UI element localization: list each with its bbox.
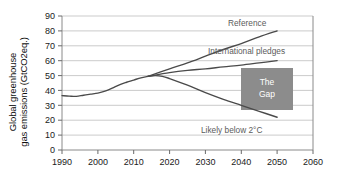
x-tick-label: 1990 (52, 157, 72, 167)
y-tick-label: 60 (45, 56, 55, 66)
y-tick-marks (58, 16, 62, 150)
x-tick-label: 2040 (231, 157, 251, 167)
y-tick-label: 50 (45, 71, 55, 81)
y-tick-label: 70 (45, 41, 55, 51)
x-tick-label: 2010 (124, 157, 144, 167)
y-tick-label: 0 (50, 145, 55, 155)
y-tick-label: 20 (45, 115, 55, 125)
x-tick-label: 2050 (267, 157, 287, 167)
y-tick-label: 40 (45, 86, 55, 96)
series-label-international-pledges: International pledges (208, 46, 285, 56)
y-tick-label: 30 (45, 101, 55, 111)
series-label-likely-below-2c: Likely below 2°C (201, 125, 262, 135)
the-gap-label-line2: Gap (259, 89, 275, 99)
chart-plot-area: 90 80 70 60 50 40 30 20 10 0 1990 2000 2 (0, 0, 346, 184)
x-tick-label: 2060 (303, 157, 323, 167)
x-tick-label: 2000 (88, 157, 108, 167)
y-tick-label: 10 (45, 130, 55, 140)
x-tick-marks (62, 150, 313, 154)
the-gap-label-line1: The (260, 77, 275, 87)
x-tick-labels: 1990 2000 2010 2020 2030 2040 2050 2060 (52, 157, 323, 167)
y-tick-label: 80 (45, 26, 55, 36)
y-tick-label: 90 (45, 11, 55, 21)
x-tick-label: 2030 (195, 157, 215, 167)
emissions-gap-chart: Global greenhouse gas emissions (GtCO2eq… (0, 0, 346, 184)
x-tick-label: 2020 (160, 157, 180, 167)
y-tick-labels: 90 80 70 60 50 40 30 20 10 0 (45, 11, 55, 155)
series-label-reference: Reference (228, 18, 267, 28)
